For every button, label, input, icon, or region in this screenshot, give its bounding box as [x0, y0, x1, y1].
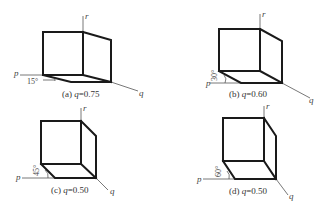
p-label: p	[13, 68, 19, 78]
cube-side-edges	[219, 29, 282, 83]
angle-label: 60°	[214, 166, 223, 177]
caption: (c) q=0.50	[51, 185, 89, 195]
q-axis	[282, 83, 310, 98]
cube-side-edges	[223, 118, 276, 179]
cube-front-face	[41, 121, 81, 164]
cube-front-face	[219, 29, 260, 71]
panel-a: p q r 15° (a) q=0.75	[13, 11, 144, 99]
caption: (b) q=0.60	[229, 89, 268, 99]
panel-b: p q r 30° (b) q=0.60	[205, 9, 314, 105]
caption: (d) q=0.50	[229, 186, 268, 196]
q-label: q	[110, 186, 115, 196]
q-label: q	[289, 191, 294, 201]
r-label: r	[85, 11, 89, 21]
angle-arc	[224, 75, 226, 83]
r-label: r	[266, 101, 270, 111]
panel-c: p q r 45° (c) q=0.50	[15, 103, 115, 196]
cube-front-face	[223, 118, 264, 161]
cube-bottom-edge	[264, 161, 276, 179]
q-axis	[96, 178, 108, 190]
angle-label: 15°	[27, 77, 38, 86]
r-label: r	[83, 103, 87, 113]
p-label: p	[15, 172, 21, 182]
angle-label: 30°	[210, 70, 219, 81]
oblique-projection-diagram: p q r 15° (a) q=0.75 p q r 30° (b) q=0.6…	[0, 0, 327, 208]
caption: (a) q=0.75	[62, 89, 100, 99]
cube-bottom-edge	[81, 164, 96, 178]
angle-arc	[227, 171, 229, 179]
angle-label: 45°	[32, 165, 41, 176]
p-label: p	[196, 174, 202, 184]
q-label: q	[309, 95, 314, 105]
q-label: q	[139, 88, 144, 98]
cube-bottom-edge	[260, 71, 282, 83]
diagram-svg: p q r 15° (a) q=0.75 p q r 30° (b) q=0.6…	[0, 0, 327, 208]
q-axis	[276, 179, 288, 195]
q-axis	[111, 82, 138, 91]
cube-bottom-edge	[83, 75, 111, 82]
panel-d: p q r 60° (d) q=0.50	[196, 101, 294, 201]
r-label: r	[262, 9, 266, 19]
cube-front-face	[43, 32, 83, 75]
